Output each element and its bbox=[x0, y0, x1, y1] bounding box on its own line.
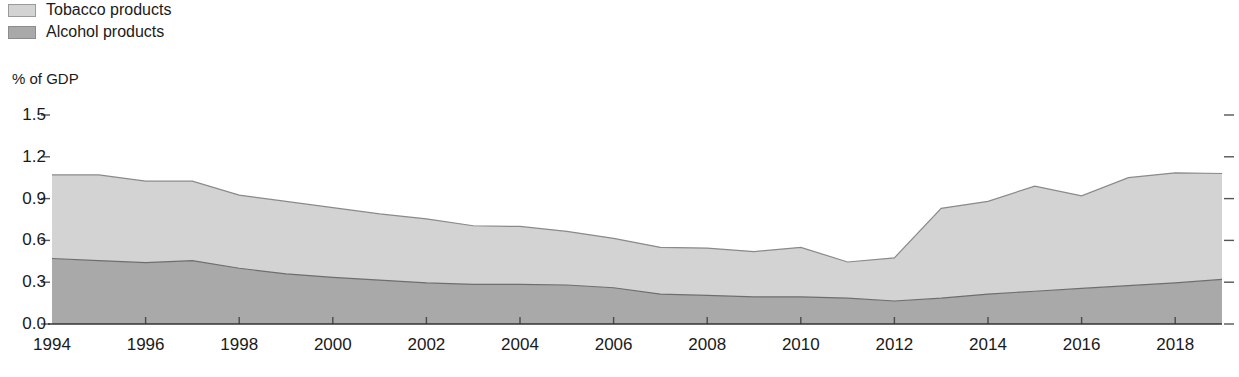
x-tick-label: 2016 bbox=[1063, 336, 1101, 353]
x-tick-label: 2010 bbox=[782, 336, 820, 353]
x-tick-label: 1998 bbox=[220, 336, 258, 353]
x-tick-label: 2008 bbox=[688, 336, 726, 353]
x-tick-label: 1994 bbox=[33, 336, 71, 353]
x-tick-label: 2018 bbox=[1156, 336, 1194, 353]
x-tick-label: 1996 bbox=[127, 336, 165, 353]
chart-page: Tobacco products Alcohol products % of G… bbox=[0, 0, 1239, 377]
x-tick-label: 2012 bbox=[875, 336, 913, 353]
x-tick-label: 2014 bbox=[969, 336, 1007, 353]
x-tick-label: 2006 bbox=[595, 336, 633, 353]
x-tick-label: 2002 bbox=[407, 336, 445, 353]
x-axis-tick-labels: 1994199619982000200220042006200820102012… bbox=[0, 0, 1239, 377]
x-tick-label: 2004 bbox=[501, 336, 539, 353]
x-tick-label: 2000 bbox=[314, 336, 352, 353]
